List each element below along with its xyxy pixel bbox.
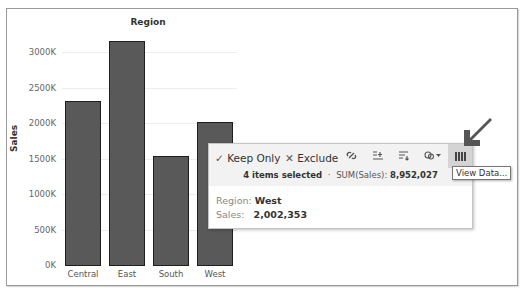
chart-title: Region bbox=[108, 17, 188, 27]
y-tick: 2500K bbox=[22, 83, 56, 93]
group-members-icon[interactable] bbox=[346, 150, 357, 165]
region-value: West bbox=[255, 195, 282, 206]
sales-label: Sales: bbox=[216, 209, 245, 220]
mark-label-icon[interactable] bbox=[424, 150, 442, 165]
exclude-label: Exclude bbox=[297, 152, 338, 164]
gridline bbox=[62, 52, 237, 53]
checkmark-icon: ✓ bbox=[215, 152, 224, 164]
keep-only-button[interactable]: ✓ Keep Only bbox=[215, 148, 281, 168]
x-label-central: Central bbox=[61, 269, 105, 279]
tooltip-details: Region: West Sales: 2,002,353 bbox=[216, 194, 307, 222]
view-data-hover-tooltip: View Data... bbox=[452, 166, 511, 180]
sort-icon[interactable] bbox=[398, 150, 410, 165]
y-tick: 1500K bbox=[22, 154, 56, 164]
region-label: Region: bbox=[216, 195, 252, 206]
sum-label: SUM(Sales): bbox=[336, 170, 387, 180]
y-tick: 3000K bbox=[22, 47, 56, 57]
callout-arrow-icon bbox=[458, 114, 494, 150]
x-label-west: West bbox=[193, 269, 237, 279]
x-label-south: South bbox=[149, 269, 193, 279]
selection-summary: 4 items selected · SUM(Sales): 8,952,027 bbox=[209, 170, 472, 180]
exclude-button[interactable]: ✕ Exclude bbox=[285, 148, 338, 168]
bar-central[interactable] bbox=[65, 101, 101, 266]
y-tick: 2000K bbox=[22, 118, 56, 128]
gridline bbox=[62, 88, 237, 89]
y-axis-label: Sales bbox=[9, 125, 19, 152]
bar-east[interactable] bbox=[109, 41, 145, 266]
x-label-east: East bbox=[105, 269, 149, 279]
selection-count: 4 items selected bbox=[243, 170, 322, 180]
sales-row: Sales: 2,002,353 bbox=[216, 208, 307, 222]
y-tick: 0K bbox=[22, 260, 56, 270]
y-tick: 500K bbox=[22, 225, 56, 235]
mark-tooltip: ✓ Keep Only ✕ Exclude 4 items selected ·… bbox=[208, 143, 473, 229]
bar-south[interactable] bbox=[153, 156, 189, 266]
y-tick: 1000K bbox=[22, 189, 56, 199]
sales-value: 2,002,353 bbox=[254, 209, 308, 220]
region-row: Region: West bbox=[216, 194, 307, 208]
tooltip-toolbar: ✓ Keep Only ✕ Exclude 4 items selected ·… bbox=[209, 144, 472, 186]
x-icon: ✕ bbox=[285, 152, 294, 164]
separator: · bbox=[328, 170, 331, 180]
create-set-icon[interactable] bbox=[372, 150, 384, 165]
view-data-icon bbox=[455, 152, 466, 161]
keep-only-label: Keep Only bbox=[227, 152, 280, 164]
sum-value: 8,952,027 bbox=[390, 170, 438, 180]
